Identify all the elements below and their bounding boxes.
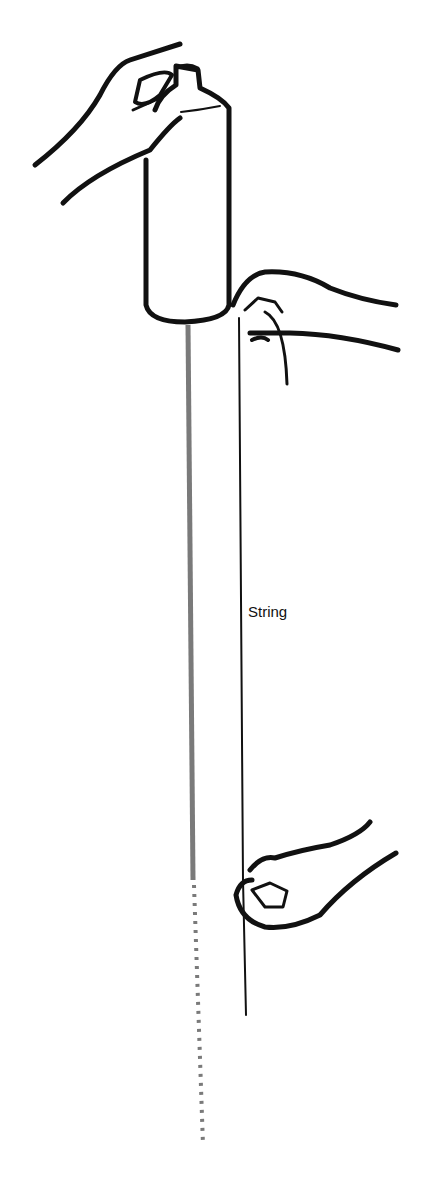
middle-hand-icon (233, 272, 398, 384)
illustration-canvas: String (0, 0, 424, 1180)
top-hand-icon (35, 44, 180, 203)
bottle-string-illustration (0, 0, 424, 1180)
bottle-icon (146, 65, 229, 322)
falling-drops (194, 885, 203, 1145)
string-label: String (248, 603, 287, 620)
bottom-hand-icon (236, 822, 396, 928)
falling-stream (188, 325, 193, 880)
